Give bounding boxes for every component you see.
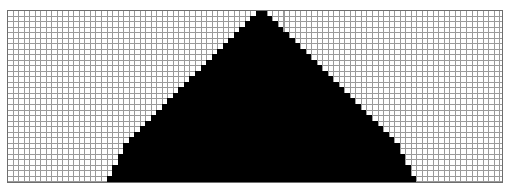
triangle-shape [7, 10, 503, 183]
figure-canvas [0, 0, 510, 194]
triangle-row-cells [107, 176, 417, 182]
graph-paper-panel [7, 10, 503, 183]
